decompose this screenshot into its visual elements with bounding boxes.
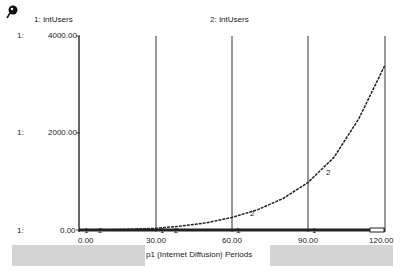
x-tick-120: 120.00	[369, 236, 393, 245]
x-tick-90: 90.00	[298, 236, 318, 245]
svg-text:1: 1	[84, 226, 89, 235]
svg-text:1: 1	[236, 226, 241, 235]
page-control-right[interactable]	[270, 245, 393, 266]
svg-text:1: 1	[312, 226, 317, 235]
svg-text:2: 2	[174, 226, 179, 235]
x-axis-label: p1 (Internet Diffusion) Periods	[146, 250, 252, 259]
svg-text:2: 2	[326, 168, 331, 177]
x-tick-0: 0.00	[78, 236, 94, 245]
svg-text:2: 2	[250, 209, 255, 218]
svg-text:2: 2	[98, 226, 103, 235]
x-tick-30: 30.00	[146, 236, 166, 245]
svg-text:1: 1	[160, 226, 165, 235]
page-control-left[interactable]	[12, 245, 145, 266]
x-tick-60: 60.00	[222, 236, 242, 245]
plot-area: 1 2 1 2 1 2 1 2	[0, 0, 403, 279]
